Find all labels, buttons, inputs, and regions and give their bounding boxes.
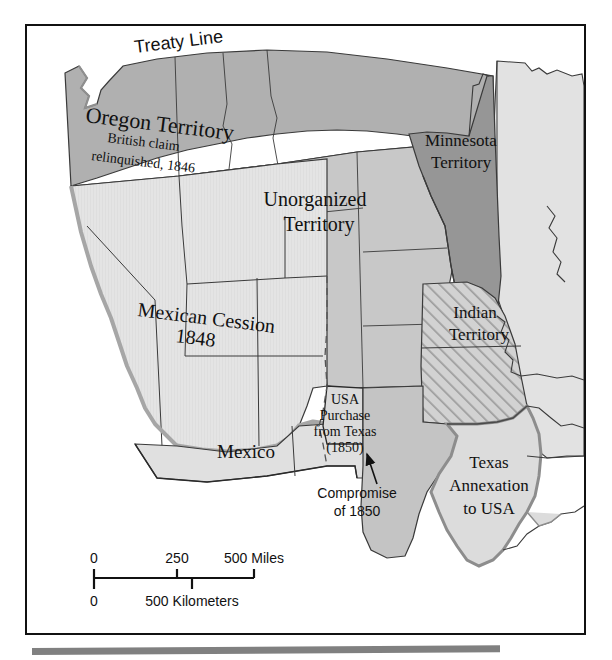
usa-purchase-line2-text: Purchase bbox=[320, 408, 371, 423]
label-mexico: Mexico bbox=[217, 441, 275, 462]
indian-line1-text: Indian bbox=[453, 303, 497, 322]
minnesota-line2-text: Territory bbox=[431, 153, 492, 172]
unorganized-line1-text: Unorganized bbox=[264, 188, 367, 211]
indian-line2-text: Territory bbox=[449, 325, 510, 344]
texas-line3-text: to USA bbox=[463, 499, 515, 518]
texas-line1-text: Texas bbox=[469, 453, 508, 472]
historical-map-graphic: Treaty Line Oregon Territory British cla… bbox=[27, 26, 584, 633]
usa-purchase-line3-text: from Texas bbox=[314, 424, 377, 439]
minnesota-line1-text: Minnesota bbox=[425, 131, 497, 150]
compromise-line1-text: Compromise bbox=[317, 485, 397, 501]
map-frame: Treaty Line Oregon Territory British cla… bbox=[25, 24, 586, 635]
usa-purchase-line4-text: (1850) bbox=[326, 440, 364, 456]
scale-miles-500-text: 500 Miles bbox=[224, 550, 284, 566]
scale-miles-0-text: 0 bbox=[90, 550, 98, 566]
scale-miles-250-text: 250 bbox=[165, 550, 189, 566]
unorganized-line2-text: Territory bbox=[284, 213, 355, 236]
scale-bar: 0 250 500 Miles 0 500 Kilometers bbox=[90, 550, 284, 609]
scale-km-500-text: 500 Kilometers bbox=[145, 593, 238, 609]
compromise-line2-text: of 1850 bbox=[334, 503, 381, 519]
bottom-rule-bar bbox=[32, 645, 500, 655]
map-screenshot: Treaty Line Oregon Territory British cla… bbox=[0, 0, 612, 660]
usa-purchase-line1-text: USA bbox=[331, 392, 360, 407]
scale-km-0-text: 0 bbox=[90, 593, 98, 609]
mexico-text: Mexico bbox=[217, 441, 275, 462]
louisiana-delta bbox=[527, 512, 561, 526]
texas-line2-text: Annexation bbox=[449, 476, 529, 495]
